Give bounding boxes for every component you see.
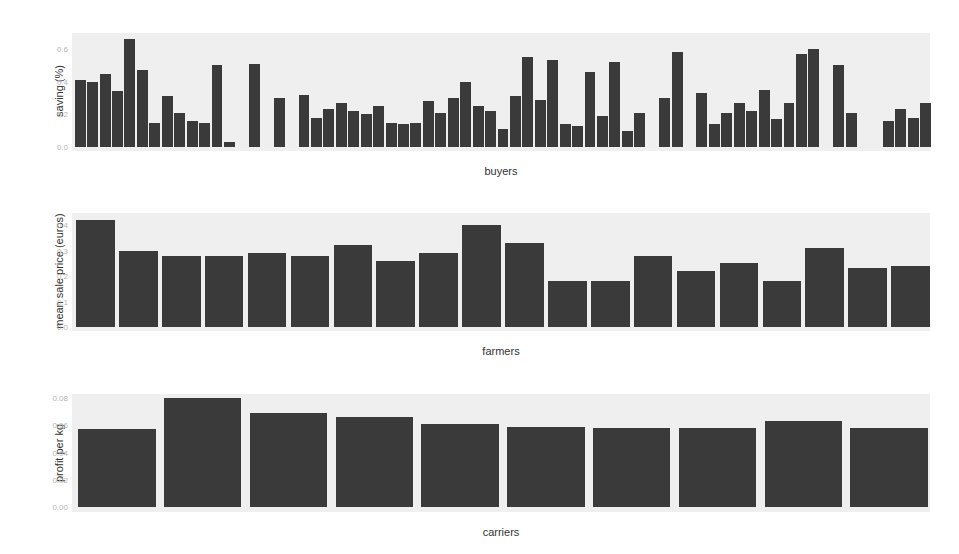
chart-buyers: saving (%) 0.00.20.40.6 buyers — [0, 0, 959, 185]
y-tick-label: 0.4 — [57, 221, 68, 230]
bar — [248, 253, 287, 327]
bar — [348, 111, 359, 147]
bar — [336, 417, 413, 507]
bar — [423, 101, 434, 147]
x-axis-label: buyers — [72, 165, 930, 177]
bar — [805, 248, 844, 327]
bar — [250, 413, 327, 507]
bar — [448, 98, 459, 147]
bar — [336, 103, 347, 147]
bar — [149, 123, 160, 148]
bar — [199, 123, 210, 148]
bar — [187, 121, 198, 147]
x-axis-label: farmers — [72, 345, 930, 357]
bar — [796, 54, 807, 147]
bar — [421, 424, 498, 507]
bar — [808, 49, 819, 147]
bar — [883, 121, 894, 147]
chart-farmers: mean sale price (euros) 0.00.10.20.30.4 … — [0, 180, 959, 365]
bar — [672, 52, 683, 147]
bar — [759, 90, 770, 147]
bar — [205, 256, 244, 327]
plot-panel — [72, 33, 930, 151]
bar-series — [72, 213, 930, 327]
bar — [522, 57, 533, 147]
bar — [746, 111, 757, 147]
bar — [659, 98, 670, 147]
bar — [891, 266, 930, 327]
bar-series — [72, 394, 930, 507]
bar — [485, 111, 496, 147]
bar — [763, 281, 802, 327]
bar — [709, 124, 720, 147]
plot-panel — [72, 213, 930, 331]
bar — [560, 124, 571, 147]
bar — [572, 126, 583, 147]
y-tick-label: 0.08 — [52, 394, 68, 403]
bar — [679, 428, 756, 507]
bar — [75, 80, 86, 147]
bar — [765, 421, 842, 507]
bar — [410, 123, 421, 148]
bar — [696, 93, 707, 147]
bar — [299, 95, 310, 147]
bar — [720, 263, 759, 327]
y-tick-label: 0.02 — [52, 475, 68, 484]
x-axis-label: carriers — [72, 526, 930, 538]
y-tick-label: 0.0 — [57, 143, 68, 152]
bar — [87, 82, 98, 147]
bar — [291, 256, 330, 327]
bar — [373, 106, 384, 147]
bar — [323, 109, 334, 147]
bar — [895, 109, 906, 147]
bar — [721, 113, 732, 147]
bar — [585, 72, 596, 147]
bar — [677, 271, 716, 327]
bar — [920, 103, 931, 147]
bar — [311, 118, 322, 147]
bar — [548, 281, 587, 327]
bar — [833, 65, 844, 147]
bar — [119, 251, 158, 328]
bar — [591, 281, 630, 327]
bar — [784, 103, 795, 147]
bar — [76, 220, 115, 327]
y-tick-label: 0.06 — [52, 421, 68, 430]
bar — [734, 103, 745, 147]
bar — [174, 113, 185, 147]
plot-panel — [72, 394, 930, 512]
bar — [848, 268, 887, 327]
bar — [137, 70, 148, 147]
bar — [124, 39, 135, 147]
y-tick-label: 0.00 — [52, 503, 68, 512]
bar — [376, 261, 415, 327]
bar — [535, 100, 546, 147]
bar — [505, 243, 544, 327]
y-tick-label: 0.04 — [52, 448, 68, 457]
bar — [850, 428, 927, 507]
bar — [386, 123, 397, 148]
bar — [249, 64, 260, 147]
bar — [507, 427, 584, 507]
y-tick-label: 0.2 — [57, 110, 68, 119]
y-tick-label: 0.1 — [57, 297, 68, 306]
bar — [462, 225, 501, 327]
y-tick-label: 0.6 — [57, 45, 68, 54]
bar — [460, 82, 471, 147]
bar — [622, 131, 633, 147]
chart-carriers: profit per kg 0.000.020.040.060.08 carri… — [0, 360, 959, 554]
bar — [419, 253, 458, 327]
bar — [498, 129, 509, 147]
y-tick-label: 0.3 — [57, 246, 68, 255]
bar — [609, 62, 620, 147]
y-tick-label: 0.2 — [57, 272, 68, 281]
y-tick-label: 0.0 — [57, 323, 68, 332]
bar — [771, 119, 782, 147]
bar — [593, 428, 670, 507]
bar — [634, 113, 645, 147]
bar — [100, 74, 111, 148]
bar — [846, 113, 857, 147]
y-tick-label: 0.4 — [57, 77, 68, 86]
bar — [435, 113, 446, 147]
bar-series — [72, 33, 930, 147]
